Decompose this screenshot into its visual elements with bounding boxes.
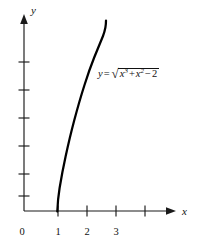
equation-equals: = (103, 68, 111, 79)
function-curve (57, 21, 106, 212)
x-tick-label-2: 2 (84, 226, 89, 237)
radical-group: √x3+x2−2 (111, 66, 160, 80)
operator-1: + (128, 68, 136, 79)
equation-lhs: y (98, 68, 103, 79)
x-tick-label-0: 0 (19, 226, 24, 237)
graph-canvas: y x 0 1 2 3 (0, 0, 198, 243)
equation-annotation: y=√x3+x2−2 (98, 66, 159, 80)
math-figure: y x 0 1 2 3 y=√x3+x2−2 (0, 0, 198, 243)
x-tick-label-3: 3 (113, 226, 118, 237)
x-axis-label: x (181, 205, 187, 217)
y-axis-arrowhead (20, 14, 28, 24)
x-tick-label-1: 1 (55, 226, 60, 237)
operator-2: − (144, 68, 152, 79)
constant-term: 2 (152, 68, 157, 79)
x-axis-arrowhead (166, 207, 176, 215)
y-axis-label: y (30, 4, 36, 16)
radicand: x3+x2−2 (118, 68, 159, 80)
